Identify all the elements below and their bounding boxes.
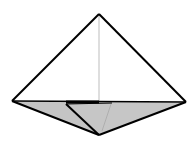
origami-diagram [0,0,196,144]
